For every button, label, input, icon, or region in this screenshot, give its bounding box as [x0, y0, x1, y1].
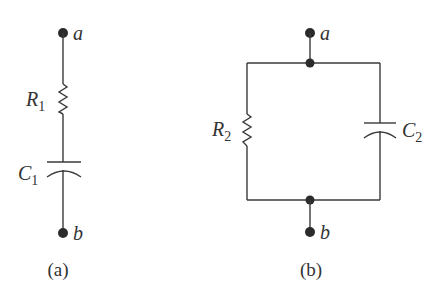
resistor-r1-icon: [59, 84, 67, 114]
circuit-diagram: a R1 C1 b (a) a: [0, 0, 436, 298]
terminal-b-label: b: [320, 221, 330, 243]
capacitor-c1-label: C1: [18, 162, 38, 188]
capacitor-c2-label: C2: [402, 119, 422, 145]
terminal-b-node: [305, 227, 315, 237]
caption-a: (a): [47, 259, 68, 281]
capacitor-c1-icon: [47, 162, 81, 177]
terminal-a-label: a: [320, 22, 330, 44]
resistor-r2-icon: [243, 114, 251, 146]
resistor-r2-label: R2: [211, 118, 231, 144]
top-junction-node: [306, 59, 315, 68]
terminal-b-label: b: [73, 222, 83, 244]
circuit-a: a R1 C1 b (a): [18, 22, 83, 281]
terminal-a-label: a: [73, 22, 83, 44]
terminal-b-node: [58, 228, 68, 238]
caption-b: (b): [300, 259, 322, 281]
resistor-r1-label: R1: [25, 88, 45, 114]
circuit-b: a R2 C2 b (b): [211, 22, 422, 281]
